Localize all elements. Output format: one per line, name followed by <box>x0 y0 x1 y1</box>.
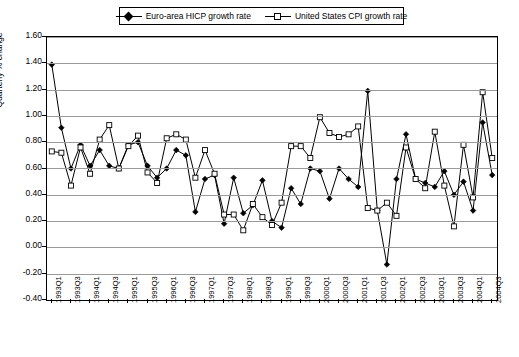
legend-entry-euro: Euro-area HICP growth rate <box>116 11 251 21</box>
x-axis-tick <box>261 299 262 303</box>
y-axis-tick-label: -0.20 <box>8 267 42 277</box>
gridline <box>47 195 497 196</box>
data-point-marker <box>365 205 370 210</box>
x-axis-tick <box>338 299 339 303</box>
x-axis-tick-label: 1999Q1 <box>284 276 293 303</box>
y-axis-tick-label: 1.20 <box>8 83 42 93</box>
data-point-marker <box>250 202 255 207</box>
x-axis-tick <box>357 299 358 303</box>
gridline <box>47 90 497 91</box>
x-axis-tick-label: 2004Q3 <box>494 276 503 303</box>
x-axis-tick-label: 2002Q3 <box>418 276 427 303</box>
x-axis-tick <box>51 299 52 303</box>
y-axis-tick-label: 1.40 <box>8 56 42 66</box>
x-axis-tick <box>127 299 128 303</box>
x-axis-tick-label: 1997Q1 <box>207 276 216 303</box>
data-point-marker <box>327 196 333 202</box>
data-point-marker <box>202 176 208 182</box>
x-axis-tick-label: 1993Q1 <box>54 276 63 303</box>
data-point-marker <box>288 185 294 191</box>
x-axis-tick <box>376 299 377 303</box>
y-axis-tick-label: 1.00 <box>8 109 42 119</box>
data-point-marker <box>375 208 380 213</box>
data-point-marker <box>68 183 73 188</box>
data-point-marker <box>174 132 179 137</box>
data-point-marker <box>231 212 236 217</box>
x-axis-tick-label: 1994Q1 <box>92 276 101 303</box>
data-point-marker <box>422 180 428 186</box>
data-point-marker <box>241 228 246 233</box>
data-point-marker <box>173 147 179 153</box>
chart-container: Euro-area HICP growth rate United States… <box>0 0 519 357</box>
x-axis-tick <box>319 299 320 303</box>
x-axis-tick-label: 1996Q1 <box>169 276 178 303</box>
data-point-marker <box>356 124 361 129</box>
data-point-marker <box>470 208 476 214</box>
y-axis-tick-label: 0.20 <box>8 214 42 224</box>
data-point-marker <box>308 155 313 160</box>
data-point-marker <box>346 132 351 137</box>
x-axis-tick-label: 1994Q3 <box>111 276 120 303</box>
gridline <box>47 37 497 38</box>
data-point-marker <box>451 224 456 229</box>
data-point-marker <box>490 155 495 160</box>
y-axis-tick-label: 0.80 <box>8 135 42 145</box>
x-axis-tick-label: 2003Q1 <box>437 276 446 303</box>
data-point-marker <box>461 142 466 147</box>
data-point-marker <box>279 225 285 231</box>
x-axis-tick-label: 1998Q3 <box>264 276 273 303</box>
data-point-marker <box>59 150 64 155</box>
data-point-marker <box>202 148 207 153</box>
data-point-marker <box>394 213 399 218</box>
x-axis-tick-label: 2002Q1 <box>398 276 407 303</box>
x-axis-tick-label: 1995Q1 <box>130 276 139 303</box>
x-axis-tick <box>185 299 186 303</box>
x-axis-tick <box>395 299 396 303</box>
x-axis-tick <box>415 299 416 303</box>
gridline <box>47 274 497 275</box>
gridline <box>47 142 497 143</box>
data-point-marker <box>337 134 342 139</box>
data-point-marker <box>442 183 447 188</box>
data-point-marker <box>298 201 304 207</box>
x-axis-tick <box>89 299 90 303</box>
x-axis-tick-label: 1993Q3 <box>73 276 82 303</box>
data-point-marker <box>260 215 265 220</box>
gridline <box>47 221 497 222</box>
data-point-marker <box>78 145 83 150</box>
legend-entry-us: United States CPI growth rate <box>265 11 407 21</box>
x-axis-tick-label: 2000Q1 <box>322 276 331 303</box>
data-point-marker <box>59 125 65 131</box>
data-point-marker <box>222 212 227 217</box>
y-axis-tick-label: 0.40 <box>8 188 42 198</box>
x-axis-tick-label: 1995Q3 <box>150 276 159 303</box>
y-axis-title: Quarterly % change <box>0 10 4 130</box>
x-axis-tick-label: 1998Q1 <box>245 276 254 303</box>
data-point-marker <box>384 200 389 205</box>
x-axis-tick-label: 2004Q1 <box>475 276 484 303</box>
x-axis-tick <box>147 299 148 303</box>
data-point-marker <box>145 170 150 175</box>
x-axis-tick <box>281 299 282 303</box>
x-axis-tick <box>204 299 205 303</box>
y-axis-tick-label: 0.00 <box>8 240 42 250</box>
x-axis-tick <box>434 299 435 303</box>
data-point-marker <box>404 145 409 150</box>
data-point-marker <box>135 133 140 138</box>
y-axis-tick-label: -0.40 <box>8 293 42 303</box>
y-axis-tick-label: 0.60 <box>8 162 42 172</box>
chart-legend: Euro-area HICP growth rate United States… <box>119 7 404 25</box>
x-axis-tick-label: 2000Q3 <box>341 276 350 303</box>
data-point-marker <box>193 209 199 215</box>
data-point-marker <box>126 144 131 149</box>
x-axis-tick <box>108 299 109 303</box>
x-axis-tick <box>300 299 301 303</box>
x-axis-tick-label: 1996Q3 <box>188 276 197 303</box>
x-axis-tick <box>70 299 71 303</box>
data-point-marker <box>49 149 54 154</box>
x-axis-tick <box>491 299 492 303</box>
x-axis-tick <box>242 299 243 303</box>
x-axis-tick-label: 2003Q3 <box>456 276 465 303</box>
data-point-marker <box>212 171 217 176</box>
data-point-marker <box>164 136 169 141</box>
